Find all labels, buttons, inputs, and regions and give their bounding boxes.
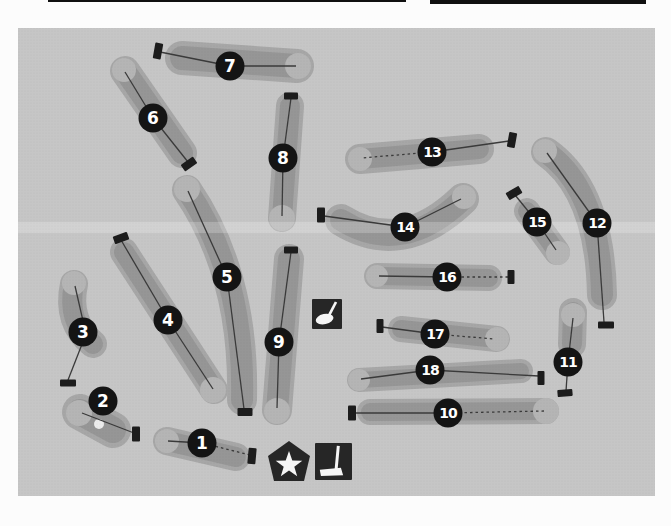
hole-18-tee-marker: [538, 371, 545, 385]
hole-9-number: 9: [273, 332, 285, 352]
golf-course-map: 123456789101112131415161718: [0, 0, 671, 526]
hole-13-number: 13: [423, 144, 441, 160]
hole-12-number: 12: [588, 215, 606, 231]
hole-6-number: 6: [147, 108, 159, 128]
hole-8-tee-marker: [284, 93, 298, 100]
hole-8-label: 8: [269, 144, 298, 173]
hole-1-number: 1: [196, 433, 208, 453]
hole-17-number: 17: [426, 326, 444, 342]
hole-3-label: 3: [69, 318, 98, 347]
hole-11-tee-marker: [557, 389, 573, 397]
hole-6-label: 6: [139, 104, 168, 133]
hole-9-tee-marker: [284, 247, 298, 254]
hole-16-label: 16: [433, 263, 462, 292]
hole-11-number: 11: [559, 354, 577, 370]
hole-1-tee-marker: [247, 448, 256, 465]
putter-icon: [315, 443, 352, 480]
hole-2-number: 2: [97, 391, 109, 411]
hole-13-label: 13: [418, 138, 447, 167]
hole-18-number: 18: [421, 362, 439, 378]
page-rule-thick: [430, 0, 646, 4]
hole-11-label: 11: [554, 348, 583, 377]
page-header-rules: [48, 0, 646, 4]
hole-17-tee-marker: [377, 319, 384, 333]
scanned-page: 123456789101112131415161718: [0, 0, 671, 526]
hole-4-label: 4: [154, 306, 183, 335]
hole-5-number: 5: [221, 267, 233, 287]
hole-14-number: 14: [396, 219, 415, 235]
hole-17-label: 17: [421, 320, 450, 349]
hole-14-tee-marker: [317, 208, 325, 223]
hole-5-label: 5: [213, 263, 242, 292]
hole-1-label: 1: [188, 429, 217, 458]
page-rule-thin: [48, 0, 406, 2]
golf-club-icon: [312, 299, 342, 329]
hole-2-label: 2: [89, 387, 118, 416]
hole-2-tee-marker: [132, 427, 140, 442]
hole-16-tee-marker: [508, 270, 515, 284]
hole-7-number: 7: [224, 56, 236, 76]
hole-10-tee-marker: [348, 406, 356, 421]
hole-14-label: 14: [391, 213, 420, 242]
hole-9-label: 9: [265, 328, 294, 357]
hole-16-number: 16: [438, 269, 456, 285]
hole-10-label: 10: [434, 399, 463, 428]
hole-18-label: 18: [416, 356, 445, 385]
hole-7-label: 7: [216, 52, 245, 81]
hole-12-label: 12: [583, 209, 612, 238]
hole-15-label: 15: [523, 208, 552, 237]
hole-12-tee-marker: [598, 322, 614, 329]
hole-8-number: 8: [277, 148, 289, 168]
hole-10-number: 10: [439, 405, 458, 421]
hole-4-number: 4: [162, 310, 174, 330]
hole-3-tee-marker: [60, 380, 76, 387]
hole-3-number: 3: [77, 322, 89, 342]
hole-5-tee-marker: [238, 408, 253, 416]
hole-15-number: 15: [528, 214, 546, 230]
